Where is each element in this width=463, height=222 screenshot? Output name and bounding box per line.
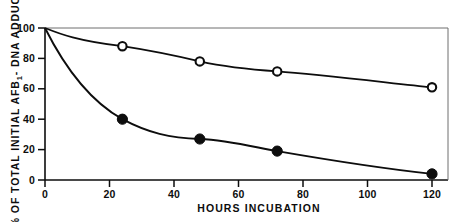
series-filled-circle-line bbox=[45, 28, 432, 174]
x-tick-label-60: 60 bbox=[232, 188, 244, 200]
y-axis-ticks bbox=[38, 28, 45, 180]
x-tick-label-0: 0 bbox=[42, 188, 48, 200]
x-axis-title: HOURS INCUBATION bbox=[197, 202, 321, 214]
y-tick-label-40: 40 bbox=[23, 113, 35, 125]
chart-canvas: 100 80 60 40 20 0 0 20 40 60 80 100 120 bbox=[0, 0, 463, 222]
y-axis-title-suffix: - DNA ADDUCTS bbox=[9, 0, 21, 75]
series-filled-circle bbox=[45, 28, 437, 179]
x-tick-label-120: 120 bbox=[423, 188, 441, 200]
series-open-circle bbox=[45, 28, 436, 92]
data-point-filled-120h bbox=[427, 169, 437, 179]
data-point-filled-48h bbox=[195, 134, 205, 144]
figure-container: 100 80 60 40 20 0 0 20 40 60 80 100 120 bbox=[0, 0, 463, 222]
data-point-open-24h bbox=[118, 42, 126, 50]
y-tick-label-80: 80 bbox=[23, 52, 35, 64]
y-axis-title-main: % OF TOTAL INITIAL AFB bbox=[9, 80, 21, 222]
x-tick-label-80: 80 bbox=[297, 188, 309, 200]
y-tick-label-20: 20 bbox=[23, 143, 35, 155]
x-tick-label-20: 20 bbox=[103, 188, 115, 200]
data-point-open-48h bbox=[196, 57, 204, 65]
data-point-filled-24h bbox=[117, 114, 127, 124]
x-tick-label-40: 40 bbox=[168, 188, 180, 200]
x-axis-ticks bbox=[45, 180, 432, 187]
plot-frame bbox=[45, 28, 448, 180]
series-open-circle-line bbox=[45, 28, 432, 87]
x-tick-label-100: 100 bbox=[358, 188, 376, 200]
data-point-open-120h bbox=[428, 83, 436, 91]
data-point-filled-72h bbox=[272, 146, 282, 156]
x-axis-tick-labels: 0 20 40 60 80 100 120 bbox=[42, 188, 441, 200]
data-point-open-72h bbox=[273, 67, 281, 75]
y-tick-label-60: 60 bbox=[23, 82, 35, 94]
y-tick-label-0: 0 bbox=[29, 174, 35, 186]
